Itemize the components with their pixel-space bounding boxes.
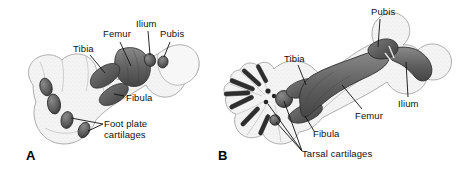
label-a-ilium: Ilium: [136, 19, 157, 30]
label-a-tibia: Tibia: [73, 44, 94, 55]
panel-letter-a: A: [26, 148, 35, 163]
label-b-pubis: Pubis: [371, 7, 395, 18]
panel-letter-b: B: [218, 148, 227, 163]
panel-b-nodule-1: [265, 88, 270, 93]
figure-illustration: [0, 0, 462, 182]
label-a-fibula: Fibula: [126, 93, 152, 104]
figure-root: Tibia Femur Ilium Pubis Fibula Foot plat…: [0, 0, 462, 182]
label-b-fibula: Fibula: [313, 129, 339, 140]
label-a-femur: Femur: [103, 29, 131, 40]
label-a-pubis: Pubis: [160, 29, 184, 40]
panel-b-tarsal-cartilage-2: [270, 115, 280, 125]
leader-a-ilium: [148, 31, 150, 55]
label-a-foot-plate-cartilages: Foot plate cartilages: [104, 119, 164, 140]
panel-b-nodule-2: [264, 100, 269, 105]
label-b-tibia: Tibia: [284, 54, 305, 65]
label-b-ilium: Ilium: [398, 99, 419, 110]
label-b-tarsal-cartilages: Tarsal cartilages: [302, 149, 372, 160]
label-b-femur: Femur: [355, 111, 383, 122]
